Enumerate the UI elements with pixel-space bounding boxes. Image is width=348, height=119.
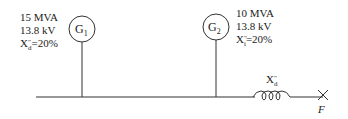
power-system-diagram: G1 G2 15 MVA 13.8 kV X"d=20% 10 MVA 13.8… <box>0 0 348 119</box>
generator-g2-symbol: G2 <box>208 20 221 36</box>
generator-g2-reactance: X"i=20% <box>236 33 272 47</box>
fault-x-icon <box>318 90 328 100</box>
reactor-label: X"d <box>266 73 277 87</box>
generator-g1-rating: 15 MVA <box>20 11 58 23</box>
reactor-coil-icon <box>253 91 290 100</box>
generator-g1-voltage: 13.8 kV <box>20 24 55 36</box>
generator-g2-rating: 10 MVA <box>236 7 274 19</box>
generator-g1-reactance: X"d=20% <box>20 37 58 51</box>
fault-label: F <box>318 103 325 115</box>
generator-g2-voltage: 13.8 kV <box>236 20 271 32</box>
generator-g1-symbol: G1 <box>75 22 88 38</box>
